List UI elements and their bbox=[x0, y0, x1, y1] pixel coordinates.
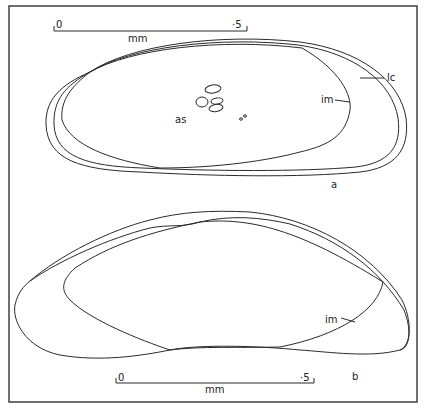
label-im-a: im bbox=[321, 94, 334, 105]
label-im-b: im bbox=[325, 314, 338, 325]
scale-bar-a-end: ·5 bbox=[232, 19, 242, 30]
figure-frame bbox=[9, 6, 417, 402]
scale-bar-b-unit: mm bbox=[205, 384, 224, 395]
panel-b-label: b bbox=[352, 371, 358, 382]
ostracod-valve-figure: 0 ·5 mm as im lc a bbox=[0, 0, 426, 409]
scale-bar-b: 0 ·5 mm bbox=[116, 372, 314, 395]
panel-a: 0 ·5 mm as im lc a bbox=[46, 19, 407, 190]
scale-bar-a-unit: mm bbox=[128, 33, 147, 44]
scale-bar-a: 0 ·5 mm bbox=[54, 19, 247, 44]
valve-b-lateral-contour bbox=[30, 218, 409, 350]
scale-bar-a-start: 0 bbox=[56, 19, 62, 30]
scale-bar-b-end: ·5 bbox=[300, 372, 310, 383]
valve-b-outer-margin bbox=[15, 211, 410, 358]
scale-bar-b-start: 0 bbox=[118, 372, 124, 383]
valve-a-outer-margin bbox=[46, 39, 407, 176]
leader-im-a bbox=[335, 100, 350, 102]
valve-a-lateral-contour bbox=[54, 42, 399, 171]
adductor-scars bbox=[196, 84, 247, 120]
panel-b: 0 ·5 mm im b bbox=[15, 211, 410, 395]
panel-a-label: a bbox=[331, 179, 337, 190]
label-lc: lc bbox=[387, 72, 395, 83]
label-as: as bbox=[175, 114, 186, 125]
